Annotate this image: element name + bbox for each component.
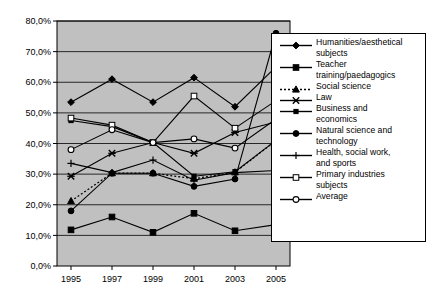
legend-key-swatch [276,172,316,183]
data-point-marker [68,227,74,233]
y-tick-label: 50,0% [25,108,51,118]
data-point-marker [191,136,197,142]
legend-label: Average [316,191,348,202]
legend-marker-square-open-icon [276,169,316,180]
data-point-marker [232,228,238,234]
y-tick-label: 70,0% [25,47,51,57]
legend-entry[interactable]: Health, social work, and sports [272,147,425,169]
data-point-marker [68,147,74,153]
legend-marker-square-filled-icon [276,59,316,70]
legend-marker-diamond-filled-icon [276,37,316,48]
data-point-marker [232,176,238,182]
data-point-marker [294,109,298,113]
y-tick-label: 60,0% [25,77,51,87]
data-point-marker [293,131,299,137]
legend-entry[interactable]: Primary industries subjects [272,169,425,191]
legend-label: Health, social work, and sports [316,147,391,169]
data-point-marker [191,183,197,189]
legend-key-swatch [276,62,316,73]
data-point-marker [191,93,197,99]
data-point-marker [293,197,299,203]
legend-marker-plus-icon [276,147,316,158]
y-tick-label: 30,0% [25,169,51,179]
legend-entry[interactable]: Business and economics [272,103,425,125]
legend-entry[interactable]: Humanities/aesthetical subjects [272,37,425,59]
data-point-marker [191,211,197,217]
legend-key-swatch [276,150,316,161]
legend-label: Social science [316,81,371,92]
legend-entry[interactable]: Average [272,191,425,202]
data-point-marker [150,170,156,176]
x-tick-label: 1997 [102,274,122,284]
x-tick-label: 2003 [225,274,245,284]
x-tick-label: 2005 [266,274,286,284]
x-tick-label: 1999 [143,274,163,284]
legend-label: Primary industries subjects [316,169,385,191]
legend-label: Natural science and technology [316,125,392,147]
legend-label: Humanities/aesthetical subjects [316,37,402,59]
data-point-marker [150,230,156,236]
legend-key-swatch [276,128,316,139]
legend-key-swatch [276,194,316,205]
data-point-marker [68,115,74,121]
legend-label: Business and economics [316,103,368,125]
legend-entry[interactable]: Law [272,92,425,103]
data-point-marker [293,65,299,71]
line-chart: 0,0%10,0%20,0%30,0%40,0%50,0%60,0%70,0%8… [0,0,432,301]
data-point-marker [150,140,156,146]
legend-entry[interactable]: Social science [272,81,425,92]
data-point-marker [293,42,300,49]
legend-key-swatch [276,40,316,51]
legend-entry[interactable]: Natural science and technology [272,125,425,147]
legend-key-swatch [276,106,316,117]
y-tick-label: 10,0% [25,231,51,241]
legend-label: Law [316,92,332,103]
chart-legend: Humanities/aesthetical subjectsTeacher t… [271,33,426,242]
legend-marker-circle-filled-icon [276,125,316,136]
y-tick-label: 0,0% [30,261,51,271]
legend-entry[interactable]: Teacher training/paedagogics [272,59,425,81]
legend-marker-triangle-filled-icon [276,81,316,92]
data-point-marker [68,208,74,214]
data-point-marker [109,214,115,220]
y-tick-label: 40,0% [25,139,51,149]
legend-marker-x-cross-icon [276,92,316,103]
x-tick-label: 1995 [61,274,81,284]
data-point-marker [292,152,299,159]
data-point-marker [232,125,238,131]
y-tick-label: 80,0% [25,16,51,26]
legend-marker-circle-open-icon [276,191,316,202]
data-point-marker [109,127,115,133]
legend-label: Teacher training/paedagogics [316,59,395,81]
data-point-marker [232,145,238,151]
x-tick-label: 2001 [184,274,204,284]
y-tick-label: 20,0% [25,200,51,210]
legend-marker-square-small-filled-icon [276,103,316,114]
data-point-marker [293,175,299,181]
